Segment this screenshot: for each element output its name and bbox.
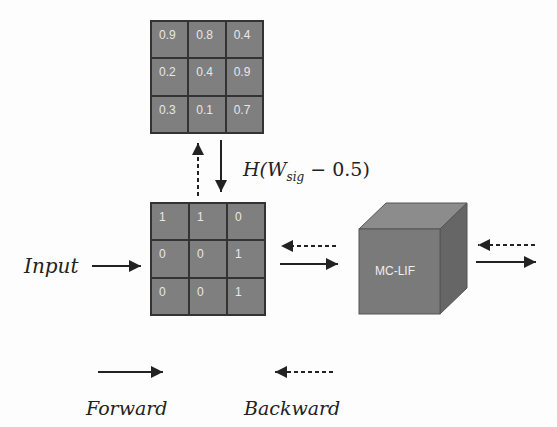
formula-prefix: H(W (243, 158, 287, 180)
formula-label: H(Wsig − 0.5) (243, 158, 370, 184)
legend-forward-label: Forward (86, 397, 168, 419)
input-label: Input (24, 254, 79, 278)
mc-lif-cube (359, 203, 467, 314)
formula-subscript: sig (287, 170, 305, 184)
legend-backward-label: Backward (244, 397, 340, 419)
formula-suffix: − 0.5) (304, 158, 370, 180)
diagram-arrows (0, 0, 557, 427)
cube-label: MC-LIF (375, 264, 415, 278)
